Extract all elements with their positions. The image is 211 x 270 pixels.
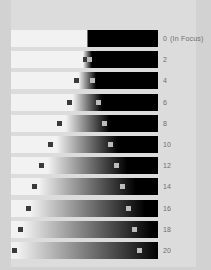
in-focus-note: (In Focus) bbox=[170, 35, 204, 42]
fiducial-marker-dark bbox=[12, 248, 17, 253]
blur-edge-gradient bbox=[11, 72, 158, 89]
blur-row bbox=[11, 200, 158, 217]
step-label: 14 bbox=[163, 178, 171, 195]
fiducial-marker-dark bbox=[39, 163, 44, 168]
fiducial-marker-dark bbox=[26, 206, 31, 211]
step-label-value: 20 bbox=[163, 247, 171, 254]
fiducial-marker-light bbox=[102, 121, 107, 126]
blur-edge-gradient bbox=[11, 157, 158, 174]
step-label-value: 2 bbox=[163, 56, 167, 63]
blur-edge-gradient bbox=[11, 242, 158, 259]
fiducial-marker-dark bbox=[48, 142, 53, 147]
fiducial-marker-light bbox=[132, 227, 137, 232]
step-label: 18 bbox=[163, 221, 171, 238]
step-label: 12 bbox=[163, 157, 171, 174]
blur-edge-gradient bbox=[11, 115, 158, 132]
step-label: 20 bbox=[163, 242, 171, 259]
blur-row bbox=[11, 115, 158, 132]
blur-row bbox=[11, 72, 158, 89]
blur-row bbox=[11, 157, 158, 174]
blur-row bbox=[11, 94, 158, 111]
fiducial-marker-dark bbox=[67, 100, 72, 105]
step-label-value: 8 bbox=[163, 120, 167, 127]
step-label-column: 0(In Focus)2468101214161820 bbox=[163, 30, 211, 262]
fiducial-marker-light bbox=[96, 100, 101, 105]
blur-edge-gradient bbox=[11, 30, 158, 47]
fiducial-marker-light bbox=[87, 57, 92, 62]
fiducial-marker-light bbox=[114, 163, 119, 168]
blur-edge-gradient bbox=[11, 136, 158, 153]
step-label-value: 10 bbox=[163, 141, 171, 148]
fiducial-marker-light bbox=[90, 78, 95, 83]
blur-row bbox=[11, 178, 158, 195]
defocus-blur-chart: 0(In Focus)2468101214161820 bbox=[0, 0, 211, 270]
fiducial-marker-light bbox=[137, 248, 142, 253]
step-label: 2 bbox=[163, 51, 167, 68]
step-label: 8 bbox=[163, 115, 167, 132]
blur-row bbox=[11, 136, 158, 153]
fiducial-marker-dark bbox=[18, 227, 23, 232]
fiducial-marker-light bbox=[108, 142, 113, 147]
fiducial-marker-light bbox=[126, 206, 131, 211]
step-label-value: 14 bbox=[163, 183, 171, 190]
blur-row bbox=[11, 242, 158, 259]
blur-row bbox=[11, 30, 158, 47]
fiducial-marker-light bbox=[120, 184, 125, 189]
blur-row-stack bbox=[11, 30, 158, 262]
blur-row bbox=[11, 51, 158, 68]
step-label-value: 6 bbox=[163, 99, 167, 106]
step-label: 6 bbox=[163, 94, 167, 111]
step-label: 10 bbox=[163, 136, 171, 153]
blur-edge-gradient bbox=[11, 200, 158, 217]
step-label: 16 bbox=[163, 200, 171, 217]
blur-row bbox=[11, 221, 158, 238]
step-label: 0(In Focus) bbox=[163, 30, 204, 47]
step-label-value: 0 bbox=[163, 35, 167, 42]
step-label-value: 4 bbox=[163, 77, 167, 84]
step-label-value: 18 bbox=[163, 226, 171, 233]
step-label-value: 12 bbox=[163, 162, 171, 169]
fiducial-marker-dark bbox=[74, 78, 79, 83]
fiducial-marker-dark bbox=[32, 184, 37, 189]
step-label-value: 16 bbox=[163, 205, 171, 212]
step-label: 4 bbox=[163, 72, 167, 89]
fiducial-marker-dark bbox=[57, 121, 62, 126]
blur-edge-gradient bbox=[11, 94, 158, 111]
